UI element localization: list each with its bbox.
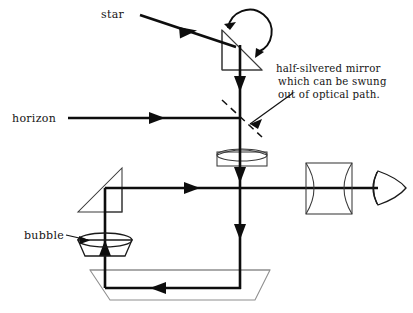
left-vertical-beam bbox=[99, 188, 111, 288]
annotation-line-1: half-silvered mirror bbox=[276, 63, 381, 74]
eyepiece-axis-beam bbox=[105, 182, 378, 194]
horizon-ray bbox=[68, 112, 241, 124]
bottom-prism bbox=[90, 270, 270, 300]
field-lens bbox=[217, 149, 267, 166]
label-horizon: horizon bbox=[12, 112, 56, 125]
optical-diagram-canvas: star horizon bubble half-silvered mirror… bbox=[0, 0, 413, 313]
annotation-line-2: which can be swung bbox=[278, 76, 387, 87]
rotation-arrow-icon bbox=[224, 10, 272, 58]
label-star: star bbox=[101, 8, 125, 21]
bottom-return-beam bbox=[105, 282, 241, 294]
label-bubble: bubble bbox=[24, 229, 64, 242]
left-prism bbox=[78, 168, 122, 212]
vertical-beam-lower bbox=[234, 188, 246, 289]
vertical-beam-upper bbox=[234, 45, 246, 118]
vertical-beam-mid bbox=[234, 118, 246, 189]
optical-diagram: star horizon bubble half-silvered mirror… bbox=[0, 0, 413, 313]
annotation-line-3: out of optical path. bbox=[278, 89, 380, 100]
